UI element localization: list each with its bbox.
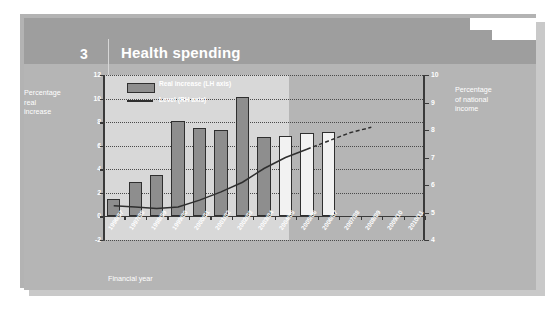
left-axis-title: Percentage real increase	[24, 88, 82, 117]
y-axis-right-tick-mark	[425, 130, 429, 131]
y-axis-left-tick-label: 0	[83, 212, 101, 219]
right-axis-title-line-2: of national	[455, 95, 488, 104]
y-axis-right-tick-label: 6	[431, 181, 447, 188]
level-line-solid	[114, 149, 307, 208]
legend-line-label: Level (RH axis)	[159, 96, 206, 103]
y-axis-right-tick-label: 9	[431, 99, 447, 106]
y-axis-right-tick-label: 4	[431, 236, 447, 243]
y-axis-right-tick-mark	[425, 213, 429, 214]
left-axis-title-line-2: real	[24, 98, 36, 107]
y-axis-left-tick-label: 8	[83, 118, 101, 125]
y-axis-right-tick-mark	[425, 158, 429, 159]
right-axis-title: Percentage of national income	[455, 85, 525, 114]
legend-line-swatch	[127, 100, 153, 102]
y-axis-right-tick-mark	[425, 240, 429, 241]
y-axis-left-tick-label: 10	[83, 95, 101, 102]
y-axis-left-tick-label: -2	[83, 236, 101, 243]
slide-canvas: 3 Health spending Percentage real increa…	[0, 0, 556, 312]
panel-shadow-right	[536, 22, 545, 296]
y-axis-left-tick-label: 12	[83, 71, 101, 78]
right-axis-title-line-3: income	[455, 104, 478, 113]
level-line-dashed	[307, 127, 371, 149]
y-axis-right-tick-label: 10	[431, 71, 447, 78]
y-axis-right-tick-mark	[425, 75, 429, 76]
chart-plot-area: 121086420-2 10987654 Real increase (LH a…	[103, 75, 425, 240]
page-title: Health spending	[121, 44, 241, 61]
y-axis-right-tick-label: 5	[431, 209, 447, 216]
slide-number: 3	[71, 46, 97, 62]
left-axis-title-line-1: Percentage	[24, 88, 61, 97]
x-axis-title: Financial year	[108, 274, 153, 283]
slide-header: 3 Health spending	[24, 18, 536, 64]
panel-shadow-bottom	[29, 290, 545, 296]
y-axis-left-tick-label: 6	[83, 142, 101, 149]
x-axis-tick-mark	[425, 216, 426, 220]
y-axis-left-tick-label: 4	[83, 165, 101, 172]
gridline	[103, 240, 425, 241]
header-divider	[108, 39, 109, 79]
legend-bar-swatch	[127, 83, 155, 93]
y-axis-right-tick-label: 8	[431, 126, 447, 133]
corner-notch-lower	[492, 18, 536, 40]
y-axis-left-tick-mark	[100, 240, 104, 241]
left-axis-title-line-3: increase	[24, 107, 51, 116]
legend-bar-label: Real increase (LH axis)	[159, 80, 231, 87]
y-axis-right-tick-mark	[425, 185, 429, 186]
y-axis-right-tick-mark	[425, 103, 429, 104]
y-axis-left-tick-label: 2	[83, 189, 101, 196]
right-axis-title-line-1: Percentage	[455, 85, 492, 94]
y-axis-right-tick-label: 7	[431, 154, 447, 161]
